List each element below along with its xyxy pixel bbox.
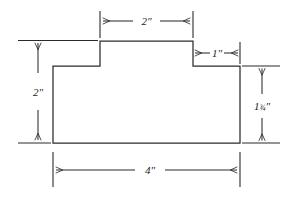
dimension-top-plateau-width: 2" xyxy=(100,11,193,38)
dimension-overall-width-bottom: 4" xyxy=(53,152,240,187)
dimension-label-body-height-right: 1¾" xyxy=(254,100,271,112)
dimension-label-right-shoulder-width: 1" xyxy=(212,47,223,59)
technical-drawing-canvas: 2" 1" 2" 1¾" xyxy=(0,0,292,197)
dimension-right-shoulder-width: 1" xyxy=(195,42,240,64)
dimension-label-top-plateau-width: 2" xyxy=(141,15,152,27)
dimension-label-overall-width-bottom: 4" xyxy=(145,164,156,176)
dimension-label-body-height-suffix: " xyxy=(265,100,270,112)
technical-drawing: 2" 1" 2" 1¾" xyxy=(0,0,292,197)
dimension-body-height-right: 1¾" xyxy=(242,66,280,143)
dimension-label-overall-height-left: 2" xyxy=(33,86,44,98)
